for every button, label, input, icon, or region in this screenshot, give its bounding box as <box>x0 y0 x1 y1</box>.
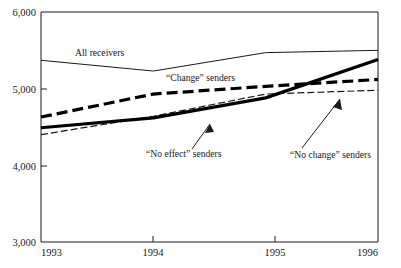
annotation-no-change-senders: “No change” senders <box>290 149 371 160</box>
x-tick-label-1994: 1994 <box>143 247 165 258</box>
y-tick-label-5000: 5,000 <box>12 84 36 95</box>
y-tick-label-3000: 3,000 <box>12 237 36 248</box>
annotation-all-receivers: All receivers <box>75 47 125 58</box>
y-tick-label-6000: 6,000 <box>12 7 36 18</box>
line-chart: 6,000 5,000 4,000 3,000 1993 1994 1995 1… <box>0 0 401 268</box>
annotation-no-effect-senders: “No effect” senders <box>146 148 222 159</box>
chart-container: 6,000 5,000 4,000 3,000 1993 1994 1995 1… <box>0 0 401 268</box>
annotation-change-senders: “Change” senders <box>166 72 235 83</box>
x-tick-label-1995: 1995 <box>265 247 286 258</box>
x-tick-label-1993: 1993 <box>41 247 62 258</box>
x-tick-label-1996: 1996 <box>357 247 378 258</box>
y-tick-label-4000: 4,000 <box>12 161 36 172</box>
